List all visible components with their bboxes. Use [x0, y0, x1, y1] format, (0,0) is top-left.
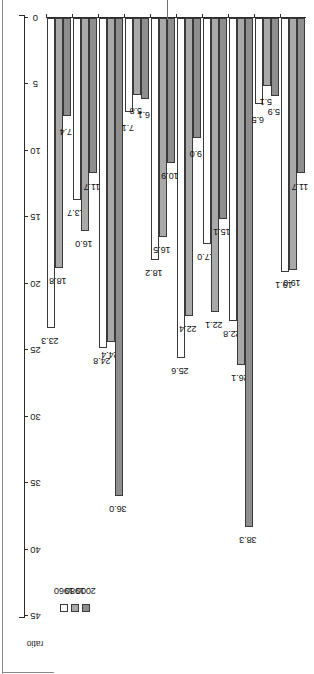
bar-1960-4: [255, 18, 263, 104]
bar-1980-5: [289, 18, 297, 270]
bar-1960-1: [177, 18, 185, 358]
bar-1980-2: [211, 18, 219, 312]
bar-value-label: 11.7: [292, 182, 308, 192]
panel-divider: [167, 0, 168, 20]
bar-2000-4: [271, 18, 279, 96]
bar-1980-1: [185, 18, 193, 316]
bar-value-label: 15.1: [213, 227, 230, 237]
panel-50th-percentile: 25.622.49.0East Asia17.022.115.1South As…: [0, 0, 314, 674]
bar-1960-2: [203, 18, 211, 244]
category-tick: [228, 14, 229, 18]
bar-value-label: 38.3: [239, 535, 256, 545]
bar-value-label: 22.4: [179, 324, 196, 334]
bar-1960-5: [281, 18, 289, 272]
category-tick: [280, 14, 281, 18]
bar-value-label: 5.9: [268, 107, 280, 117]
bar-value-label: 9.0: [190, 149, 202, 159]
bar-value-label: 19.0: [283, 279, 300, 289]
category-tick: [176, 14, 177, 18]
chart-canvas: ratio 051015202530354045 196019802000 23…: [0, 0, 314, 674]
category-tick: [254, 14, 255, 18]
bar-2000-3: [245, 18, 253, 527]
category-tick: [202, 14, 203, 18]
figure-frame: ratio 051015202530354045 196019802000 23…: [0, 0, 314, 674]
bar-2000-2: [219, 18, 227, 219]
bar-value-label: 25.6: [171, 367, 188, 377]
bar-1960-3: [229, 18, 237, 321]
bar-2000-1: [193, 18, 201, 138]
bar-1980-4: [263, 18, 271, 86]
bar-value-label: 22.1: [205, 320, 222, 330]
bar-2000-5: [297, 18, 305, 173]
bar-value-label: 5.1: [260, 97, 272, 107]
bar-value-label: 6.5: [252, 115, 264, 125]
bar-1980-3: [237, 18, 245, 365]
